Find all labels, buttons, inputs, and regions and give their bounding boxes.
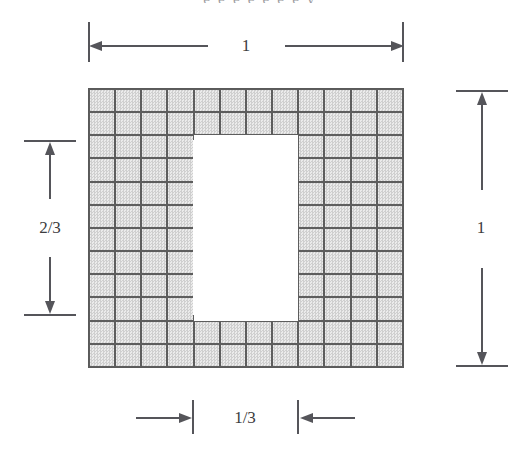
grid-cell: [194, 321, 220, 344]
grid-cell: [115, 297, 141, 320]
grid-cell: [220, 89, 246, 112]
grid-cell: [351, 182, 377, 205]
grid-cell: [115, 274, 141, 297]
grid-cell: [298, 182, 324, 205]
grid-cell: [351, 135, 377, 158]
left-dimension-arrow-up: [45, 142, 55, 155]
grid-cell: [141, 89, 167, 112]
top-dimension-label: 1: [226, 37, 266, 54]
grid-cell: [298, 135, 324, 158]
grid-cell: [377, 251, 403, 274]
grid-cell: [167, 321, 193, 344]
grid-cell: [89, 158, 115, 181]
left-dimension-line-top: [49, 152, 51, 199]
grid-cell: [141, 112, 167, 135]
grid-cell: [272, 321, 298, 344]
bottom-dimension-label: 1/3: [215, 409, 275, 426]
grid-cell: [351, 89, 377, 112]
left-dimension-arrow-down: [45, 301, 55, 314]
grid-cell: [324, 297, 350, 320]
grid-cell: [141, 251, 167, 274]
right-dimension-label: 1: [461, 219, 501, 236]
grid-cell: [377, 89, 403, 112]
grid-cell: [167, 112, 193, 135]
grid-cell: [115, 344, 141, 367]
grid-cell: [141, 344, 167, 367]
grid-cell: [324, 344, 350, 367]
grid-cell: [220, 321, 246, 344]
grid-cell: [89, 344, 115, 367]
grid-cell: [246, 89, 272, 112]
left-dimension-line-bottom: [49, 257, 51, 303]
bottom-dimension-arrow-left: [300, 413, 313, 423]
right-dimension-arrow-up: [477, 92, 487, 105]
right-dimension-arrow-down: [477, 352, 487, 365]
right-dimension-tick-bottom: [456, 365, 508, 367]
bottom-dimension-tick-left: [192, 400, 194, 434]
grid-cell: [246, 321, 272, 344]
grid-cell: [167, 344, 193, 367]
grid-cell: [167, 297, 193, 320]
grid-cell: [377, 344, 403, 367]
bottom-dimension-arrow-right: [179, 413, 192, 423]
grid-cell: [351, 158, 377, 181]
grid-cell: [377, 158, 403, 181]
grid-cell: [324, 89, 350, 112]
grid-cell: [89, 205, 115, 228]
grid-cell: [298, 228, 324, 251]
grid-cell: [115, 321, 141, 344]
grid-cell: [298, 344, 324, 367]
grid-cell: [377, 274, 403, 297]
grid-cell: [167, 89, 193, 112]
grid-cell: [141, 182, 167, 205]
grid-cell: [324, 182, 350, 205]
grid-cell: [167, 251, 193, 274]
top-dimension-arrow-right: [391, 41, 404, 51]
grid-cell: [377, 182, 403, 205]
top-dimension-line-right: [285, 45, 395, 47]
grid-cell: [167, 205, 193, 228]
grid-cell: [115, 205, 141, 228]
grid-cell: [141, 321, 167, 344]
left-dimension-label: 2/3: [20, 219, 80, 236]
figure-root: e e e e e e e y 1 2/3 1: [0, 0, 520, 459]
grid-cell: [324, 158, 350, 181]
grid-cell: [141, 135, 167, 158]
grid-cell: [298, 89, 324, 112]
grid-cell: [324, 274, 350, 297]
grid-cell: [141, 205, 167, 228]
grid-cell: [298, 112, 324, 135]
grid-cell: [167, 274, 193, 297]
grid-cell: [167, 182, 193, 205]
grid-cell: [298, 321, 324, 344]
grid-cell: [194, 89, 220, 112]
grid-cell: [351, 274, 377, 297]
grid-cell: [324, 321, 350, 344]
grid-cell: [115, 89, 141, 112]
grid-cell: [324, 135, 350, 158]
grid-cell: [194, 344, 220, 367]
grid-cell: [377, 112, 403, 135]
grid-cell: [246, 112, 272, 135]
grid-cell: [89, 89, 115, 112]
grid-hole: [193, 140, 298, 315]
grid-cell: [377, 228, 403, 251]
grid-cell: [115, 158, 141, 181]
bottom-dimension-line-left: [136, 417, 180, 419]
grid-cell: [298, 274, 324, 297]
grid-cell: [351, 112, 377, 135]
grid-cell: [272, 89, 298, 112]
top-dimension-arrow-left: [89, 41, 102, 51]
right-dimension-line-top: [481, 102, 483, 190]
grid-cell: [141, 158, 167, 181]
right-dimension-line-bottom: [481, 268, 483, 354]
grid-cell: [167, 158, 193, 181]
grid-cell: [351, 344, 377, 367]
grid-cell: [141, 274, 167, 297]
grid-cell: [167, 135, 193, 158]
grid-cell: [194, 112, 220, 135]
grid-cell: [324, 112, 350, 135]
grid-cell: [89, 274, 115, 297]
clipped-header-text: e e e e e e e y: [0, 0, 520, 3]
grid-cell: [324, 205, 350, 228]
